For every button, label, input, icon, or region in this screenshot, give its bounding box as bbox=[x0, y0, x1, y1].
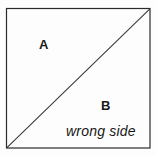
fabric-wrong-side-diagram: A B wrong side bbox=[0, 0, 156, 155]
region-label-b: B bbox=[101, 99, 110, 112]
region-label-a: A bbox=[39, 38, 48, 51]
wrong-side-annotation: wrong side bbox=[66, 124, 136, 138]
